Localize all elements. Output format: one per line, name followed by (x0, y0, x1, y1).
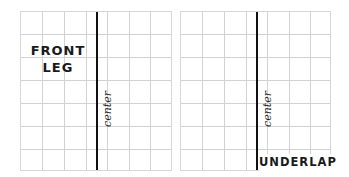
grid-line (86, 12, 87, 170)
underlap-grid-panel: center UNDERLAP (180, 11, 331, 171)
center-line (96, 12, 98, 170)
grid-line (150, 12, 151, 170)
grid-line (64, 12, 65, 170)
grid-line (202, 12, 203, 170)
grid-line (289, 12, 290, 170)
grid-line (129, 12, 130, 170)
label-line: FRONT (27, 42, 89, 59)
grid-line (224, 12, 225, 170)
front-leg-grid-panel: center FRONT LEG (20, 11, 172, 171)
grid-line (42, 12, 43, 170)
front-leg-label: FRONT LEG (27, 42, 89, 76)
grid-line (246, 12, 247, 170)
grid-line (310, 12, 311, 170)
label-line: LEG (27, 59, 89, 76)
center-label: center (101, 91, 114, 127)
center-line (256, 12, 258, 170)
underlap-label: UNDERLAP (259, 154, 331, 171)
center-label: center (261, 91, 274, 127)
